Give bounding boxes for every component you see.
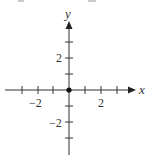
x-axis-arrow-icon [128,87,136,94]
y-axis-arrow-icon [66,21,73,29]
y-axis-label: y [63,6,71,21]
x-tick-label-2: 2 [98,96,104,110]
y-tick-label-neg2: −2 [49,116,62,130]
cropped-caption-fragment [18,0,96,2]
y-tick-label-2: 2 [56,51,62,65]
origin-point [66,87,71,92]
x-axis: −2 2 x [5,82,145,110]
coordinate-plane: −2 2 x 2 −2 y [0,0,147,155]
x-tick-label-neg2: −2 [29,96,42,110]
y-axis: 2 −2 y [49,6,73,155]
x-axis-label: x [138,82,145,97]
